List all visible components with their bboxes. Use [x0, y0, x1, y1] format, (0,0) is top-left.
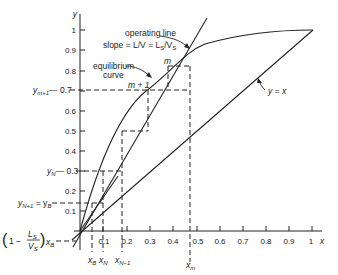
x-N-label: xN [98, 255, 108, 266]
svg-text:): ) [40, 231, 45, 248]
x-B-label: xB [87, 255, 96, 266]
x-axis-label: x [319, 236, 325, 246]
equilibrium-label-line2: curve [103, 70, 124, 80]
y-tick-0.9: 0.9 [65, 46, 77, 55]
x-N-1-label: xN−1 [114, 255, 130, 266]
x-tick-0.7: 0.7 [237, 237, 249, 246]
x-m-label: xm [185, 260, 195, 271]
y-axis-label: y [72, 9, 78, 19]
y-tick-0.6: 0.6 [65, 107, 77, 116]
stage-m1-label: m + 1 [128, 80, 150, 90]
slope-label: slope = L/V = LS/VS [103, 40, 176, 51]
x-tick-0.5: 0.5 [192, 237, 204, 246]
svg-text:1 −: 1 − [9, 236, 21, 246]
svg-text:(: ( [2, 231, 8, 248]
y-tick-1: 1 [72, 26, 77, 35]
svg-text:xB: xB [45, 237, 54, 248]
intercept-expression: ( 1 − LS VS ) xB [2, 229, 54, 252]
x-tick-0.3: 0.3 [144, 237, 156, 246]
y-tick-0.8: 0.8 [65, 67, 77, 76]
y-eq-x-label: y = x [267, 86, 287, 96]
x-ticks [103, 226, 312, 231]
x-tick-0.8: 0.8 [260, 237, 272, 246]
y-tick-0.5: 0.5 [65, 127, 77, 136]
y-ticks [80, 30, 85, 211]
y-m1-label: ym+1— 0.7 [32, 85, 72, 96]
x-tick-0.4: 0.4 [167, 237, 179, 246]
y-tick-0.1: 0.1 [65, 207, 77, 216]
stage-m-label: m [164, 56, 171, 66]
x-tick-0.1: 0.1 [98, 237, 110, 246]
operating-line-label: operating line [125, 28, 176, 38]
y-tick-0.2: 0.2 [65, 187, 77, 196]
x-tick-0.6: 0.6 [214, 237, 226, 246]
y-tick-0.4: 0.4 [65, 147, 77, 156]
y-N-label: yN— 0.3 [46, 166, 79, 177]
svg-text:LS: LS [28, 229, 37, 240]
mccabe-thiele-diagram: 0.1 0.2 0.5 0.4 0.6 0.8 0.9 1 y 0.1 0.2 … [0, 0, 338, 275]
y-tick-labels: 0.1 0.2 0.5 0.4 0.6 0.8 0.9 1 [65, 26, 77, 216]
x-tick-0.2: 0.2 [121, 237, 133, 246]
svg-text:VS: VS [28, 241, 38, 252]
curves [72, 18, 313, 247]
x-tick-1: 1 [309, 237, 314, 246]
x-tick-labels: 0.1 0.2 0.3 0.4 0.5 0.6 0.7 0.8 0.9 1 [98, 237, 313, 246]
x-tick-0.9: 0.9 [283, 237, 295, 246]
y-N1-eq-y-B-label: yN+1 = yB [17, 198, 51, 209]
